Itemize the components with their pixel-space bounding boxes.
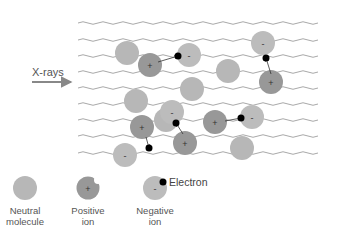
svg-text:+: + [212, 118, 217, 128]
legend-neutral-molecule-icon [13, 176, 37, 200]
legend-negative-label: Negative ion [130, 205, 180, 227]
positive-ion: + [203, 110, 227, 134]
neutral-molecule [230, 136, 254, 160]
electron [263, 55, 270, 62]
negative-ion: - [113, 143, 137, 167]
svg-text:+: + [147, 61, 152, 71]
negative-ion: - [160, 100, 184, 124]
electron [173, 120, 180, 127]
legend-electron-icon [160, 179, 167, 186]
svg-text:+: + [268, 78, 273, 88]
legend-neutral-label: Neutral molecule [0, 205, 50, 227]
positive-ion: + [173, 131, 197, 155]
legend-positive-label: Positive ion [63, 205, 113, 227]
legend-electron-label: Electron [169, 176, 208, 188]
positive-ion: + [138, 53, 162, 77]
neutral-molecule [216, 59, 240, 83]
svg-text:-: - [171, 108, 174, 118]
wave-line [78, 22, 318, 25]
neutral-molecule [180, 77, 204, 101]
svg-text:-: - [124, 151, 127, 161]
wave-line [78, 39, 318, 42]
legend-positive-line2: ion [63, 216, 113, 227]
svg-text:-: - [251, 113, 254, 123]
svg-text:-: - [154, 184, 157, 194]
svg-text:-: - [262, 39, 265, 49]
legend-positive-line1: Positive [63, 205, 113, 216]
legend-negative-line2: ion [130, 216, 180, 227]
neutral-molecule [124, 89, 148, 113]
legend-neutral-line1: Neutral [0, 205, 50, 216]
electron [175, 53, 182, 60]
wave-line [78, 103, 318, 106]
svg-text:-: - [188, 51, 191, 61]
molecules: +--++-+-+- [113, 31, 283, 167]
svg-text:+: + [182, 139, 187, 149]
electron [146, 145, 153, 152]
ionization-diagram: +--++-+-+- + - [0, 0, 337, 237]
wave-line [78, 71, 318, 74]
svg-text:+: + [85, 184, 90, 194]
legend-positive-ion-icon: + [77, 176, 103, 200]
neutral-molecule [115, 41, 139, 65]
electron [238, 115, 245, 122]
wave-line [78, 119, 318, 122]
legend-neutral-line2: molecule [0, 216, 50, 227]
svg-text:+: + [139, 123, 144, 133]
legend-negative-line1: Negative [130, 205, 180, 216]
wave-line [78, 135, 318, 138]
xray-label: X-rays [32, 66, 64, 78]
negative-ion: - [251, 31, 275, 55]
positive-ion: + [130, 115, 154, 139]
